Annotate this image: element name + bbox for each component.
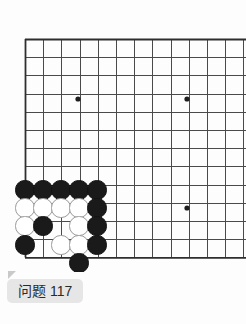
black-stone[interactable] [87, 216, 106, 235]
white-stone[interactable] [51, 235, 70, 254]
white-stone[interactable] [15, 216, 34, 235]
white-stone[interactable] [69, 216, 88, 235]
white-stone[interactable] [69, 198, 88, 217]
black-stone[interactable] [87, 198, 106, 217]
black-stone[interactable] [33, 180, 52, 199]
white-stone[interactable] [51, 198, 70, 217]
black-stone[interactable] [69, 253, 88, 272]
go-board[interactable] [0, 0, 246, 272]
black-stone[interactable] [15, 180, 34, 199]
label-pointer-icon [8, 271, 16, 279]
black-stone[interactable] [69, 180, 88, 199]
black-stone[interactable] [51, 180, 70, 199]
black-stone[interactable] [15, 235, 34, 254]
white-stone[interactable] [15, 198, 34, 217]
star-point [184, 205, 189, 210]
black-stone[interactable] [87, 180, 106, 199]
black-stone[interactable] [87, 235, 106, 254]
problem-label: 问题 117 [7, 279, 83, 303]
white-stone[interactable] [69, 235, 88, 254]
black-stone[interactable] [33, 216, 52, 235]
star-point [75, 96, 80, 101]
white-stone[interactable] [33, 198, 52, 217]
star-point [184, 96, 189, 101]
go-problem-page: 问题 117 [0, 0, 246, 324]
problem-label-text: 问题 117 [18, 283, 72, 299]
